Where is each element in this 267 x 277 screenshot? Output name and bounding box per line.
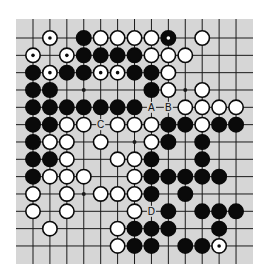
white-stone [110,239,124,253]
white-stone [229,100,243,114]
white-stone [195,117,209,131]
black-stone [60,100,74,114]
black-stone [26,169,40,183]
black-stone [144,83,158,97]
white-stone [144,31,158,45]
white-stone [144,48,158,62]
black-stone [93,48,107,62]
hoshi-point-icon [82,192,86,196]
white-stone [178,100,192,114]
black-stone [127,65,141,79]
black-stone-marked [161,31,175,45]
white-stone [60,187,74,201]
black-stone [161,117,175,131]
white-stone [26,204,40,218]
black-stone [195,204,209,218]
white-stone-marked [43,65,57,79]
stone-marker-dot-icon [167,36,171,40]
white-stone [60,152,74,166]
white-stone [60,204,74,218]
hoshi-point-icon [82,88,86,92]
white-stone [110,221,124,235]
white-stone [195,31,209,45]
black-stone [127,221,141,235]
white-stone [60,135,74,149]
white-stone [43,135,57,149]
white-stone-marked [26,48,40,62]
white-stone [127,187,141,201]
white-stone [110,117,124,131]
white-stone [43,221,57,235]
white-stone [60,169,74,183]
white-stone [127,152,141,166]
black-stone [60,65,74,79]
white-stone [77,117,91,131]
black-stone [212,117,226,131]
svg-text:D: D [148,206,155,217]
svg-text:B: B [165,102,172,113]
white-stone [178,48,192,62]
black-stone [161,135,175,149]
hoshi-point-icon [183,88,187,92]
white-stone [110,152,124,166]
black-stone [110,100,124,114]
white-stone-marked [93,65,107,79]
white-stone [161,83,175,97]
white-stone [93,31,107,45]
white-stone [127,169,141,183]
stone-marker-dot-icon [116,71,120,75]
white-stone [161,65,175,79]
stone-marker-dot-icon [48,36,52,40]
black-stone [144,187,158,201]
white-stone [144,135,158,149]
black-stone [161,204,175,218]
black-stone [195,152,209,166]
point-label-a: A [147,102,156,113]
white-stone [212,100,226,114]
white-stone [110,31,124,45]
black-stone [26,135,40,149]
stone-marker-dot-icon [65,54,69,58]
black-stone [144,239,158,253]
white-stone [195,100,209,114]
black-stone [110,48,124,62]
black-stone [144,221,158,235]
white-stone [195,83,209,97]
black-stone [178,239,192,253]
black-stone [77,48,91,62]
white-stone [93,187,107,201]
black-stone [43,100,57,114]
black-stone [144,65,158,79]
stone-marker-dot-icon [99,71,103,75]
white-stone [127,31,141,45]
black-stone [195,135,209,149]
white-stone-marked [60,48,74,62]
white-stone [144,117,158,131]
black-stone [26,65,40,79]
black-stone [26,100,40,114]
black-stone [26,152,40,166]
white-stone-marked [212,239,226,253]
white-stone [161,48,175,62]
white-stone [127,117,141,131]
stone-marker-dot-icon [48,71,52,75]
white-stone [110,187,124,201]
point-label-d: D [147,206,156,217]
black-stone [77,31,91,45]
white-stone [43,169,57,183]
point-label-b: B [164,102,173,113]
black-stone [127,100,141,114]
go-board-grid: ABCD [16,19,253,264]
black-stone [195,169,209,183]
black-stone [229,204,243,218]
black-stone [161,169,175,183]
black-stone [127,239,141,253]
stone-marker-dot-icon [31,54,35,58]
black-stone [144,152,158,166]
white-stone [26,187,40,201]
white-stone [127,204,141,218]
black-stone [212,221,226,235]
black-stone [178,187,192,201]
svg-text:A: A [148,102,155,113]
black-stone [93,100,107,114]
